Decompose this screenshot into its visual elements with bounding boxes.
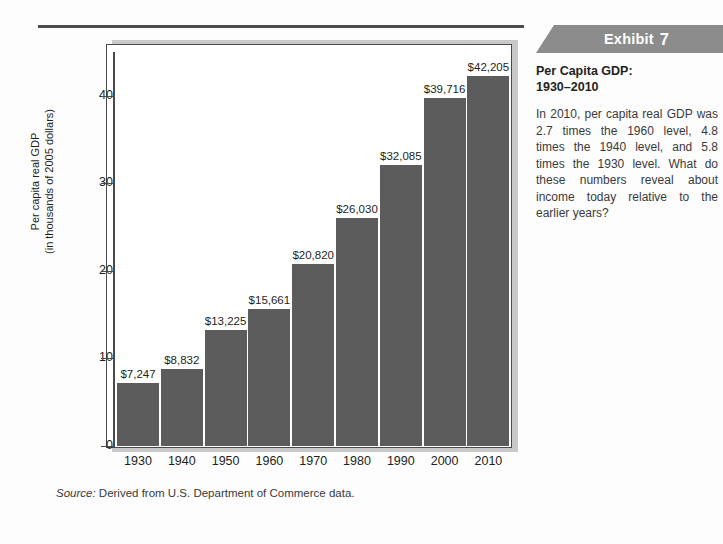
x-axis-tick-label: 1990 xyxy=(371,454,431,468)
source-prefix: Source: xyxy=(56,487,96,499)
y-axis-title-line-2: (in thousands of 2005 dollars) xyxy=(42,77,56,287)
source-text: Derived from U.S. Department of Commerce… xyxy=(99,487,355,499)
exhibit-description: In 2010, per capita real GDP was 2.7 tim… xyxy=(536,106,718,222)
exhibit-figure: Exhibit 7 Per Capita GDP: 1930–2010 In 2… xyxy=(0,0,723,544)
chart-plot-frame xyxy=(106,44,512,448)
exhibit-banner: Exhibit 7 xyxy=(536,25,723,53)
y-axis-tick: 40 xyxy=(56,96,113,97)
exhibit-title: Per Capita GDP: 1930–2010 xyxy=(536,63,718,95)
x-axis-tick-label: 1980 xyxy=(327,454,387,468)
x-axis-tick-label: 1970 xyxy=(283,454,343,468)
x-axis-tick-label: 1960 xyxy=(239,454,299,468)
exhibit-title-line-2: 1930–2010 xyxy=(536,79,718,95)
exhibit-number: 7 xyxy=(660,30,669,49)
y-axis-tick: 10 xyxy=(56,358,113,359)
side-text-column: Per Capita GDP: 1930–2010 In 2010, per c… xyxy=(536,63,718,222)
x-axis-tick-label: 1930 xyxy=(108,454,168,468)
x-axis-tick-label: 1950 xyxy=(196,454,256,468)
y-axis-title-line-1: Per capita real GDP xyxy=(29,77,43,287)
y-axis-title: Per capita real GDP (in thousands of 200… xyxy=(29,77,56,287)
exhibit-title-line-1: Per Capita GDP: xyxy=(536,63,718,79)
y-axis-tick: 30 xyxy=(56,183,113,184)
source-note: Source: Derived from U.S. Department of … xyxy=(56,487,355,499)
exhibit-label: Exhibit xyxy=(604,31,654,47)
x-axis-tick-label: 2010 xyxy=(458,454,518,468)
y-axis-tick: 20 xyxy=(56,271,113,272)
x-axis-tick-label: 1940 xyxy=(152,454,212,468)
top-divider-rule xyxy=(38,25,524,28)
y-axis-tick: 0 xyxy=(56,446,113,447)
x-axis-tick-label: 2000 xyxy=(415,454,475,468)
